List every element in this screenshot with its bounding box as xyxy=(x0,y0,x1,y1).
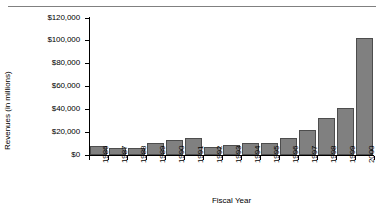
x-axis-tick-label: 1996 xyxy=(292,146,300,163)
bar-chart-figure: $0$20,000$40,000$60,000$80,000$100,000$1… xyxy=(0,0,382,210)
x-axis-tick-label: 1992 xyxy=(216,146,224,163)
y-axis-tick xyxy=(85,86,89,87)
y-axis-tick-label: $0 xyxy=(71,151,80,159)
x-axis-tick-label: 1999 xyxy=(349,146,357,163)
y-axis-tick xyxy=(85,63,89,64)
x-axis-tick-label: 1991 xyxy=(197,146,205,163)
y-axis-tick-label: $100,000 xyxy=(47,36,80,44)
x-axis-tick-label: 1989 xyxy=(159,146,167,163)
y-axis-tick-label: $80,000 xyxy=(52,59,80,67)
x-axis-tick-label: 2000 xyxy=(368,146,376,163)
y-axis-tick xyxy=(85,132,89,133)
y-axis-tick-label: $20,000 xyxy=(52,128,80,136)
y-axis-line xyxy=(89,17,90,156)
y-axis-tick-label: $120,000 xyxy=(47,14,80,22)
y-axis-title: Revenues (in millions) xyxy=(4,71,12,150)
y-axis-tick xyxy=(85,18,89,19)
x-axis-tick-label: 1990 xyxy=(178,146,186,163)
y-axis-tick xyxy=(85,40,89,41)
x-axis-tick-label: 1986 xyxy=(102,146,110,163)
x-axis-tick-label: 1988 xyxy=(140,146,148,163)
bar xyxy=(356,38,372,155)
y-axis-tick-label: $60,000 xyxy=(52,82,80,90)
x-axis-title: Fiscal Year xyxy=(89,197,374,205)
top-divider xyxy=(8,6,376,7)
y-axis-tick-label: $40,000 xyxy=(52,105,80,113)
x-axis-tick-label: 1997 xyxy=(311,146,319,163)
x-axis-tick-label: 1998 xyxy=(330,146,338,163)
x-axis-tick-label: 1994 xyxy=(254,146,262,163)
x-axis-tick-label: 1993 xyxy=(235,146,243,163)
x-axis-tick-label: 1995 xyxy=(273,146,281,163)
x-axis-tick-label: 1987 xyxy=(121,146,129,163)
x-axis-tick xyxy=(89,156,90,160)
y-axis-tick xyxy=(85,109,89,110)
